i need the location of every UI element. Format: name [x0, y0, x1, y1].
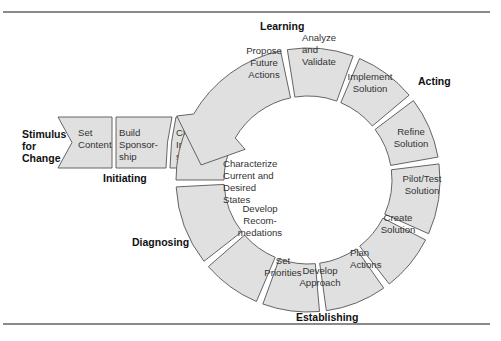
ring-step-label: CharacterizeCurrent andDesiredStates: [223, 158, 277, 205]
ring-step-label: Pilot/TestSolution: [403, 173, 442, 196]
phase-acting: Acting: [418, 75, 451, 87]
phase-establishing: Establishing: [296, 311, 358, 323]
ring-step-label: DevelopRecom-medations: [238, 203, 282, 238]
ring-step-label: CreateSolution: [381, 212, 416, 235]
ring-step-label: DevelopApproach: [299, 265, 340, 288]
cycle-ring: CharacterizeCurrent andDesiredStatesDeve…: [176, 32, 442, 312]
ideal-model-diagram: SetContent BuildSponsor-ship CharterInfr…: [0, 0, 501, 341]
ring-step-label: ProposeFutureActions: [246, 45, 282, 80]
stimulus-label: StimulusforChange: [22, 128, 66, 164]
phase-initiating: Initiating: [103, 172, 147, 184]
ring-step-label: ImplementSolution: [348, 71, 393, 94]
phase-diagnosing: Diagnosing: [132, 236, 189, 248]
ring-step-label: RefineSolution: [394, 126, 429, 149]
phase-learning: Learning: [260, 20, 304, 32]
